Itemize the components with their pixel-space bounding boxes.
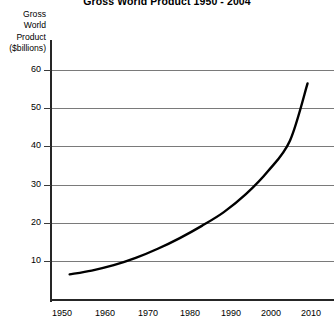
series-line-gross-world-product <box>70 83 308 274</box>
chart-container: Gross World Product 1950 - 2004 Gross Wo… <box>0 0 334 331</box>
data-curve-layer <box>0 0 334 331</box>
